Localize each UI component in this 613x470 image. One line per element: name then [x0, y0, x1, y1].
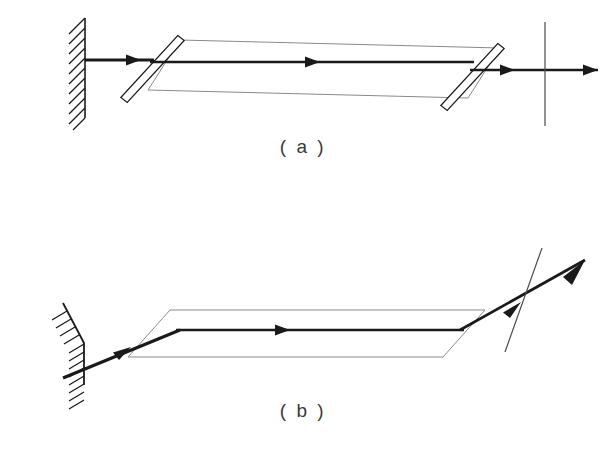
panel-a-caption: ( a )	[280, 136, 326, 157]
panel-b-caption: ( b )	[280, 400, 326, 421]
optics-diagram-canvas: ( a )	[0, 0, 613, 470]
figure-root: ( a )	[0, 0, 613, 470]
